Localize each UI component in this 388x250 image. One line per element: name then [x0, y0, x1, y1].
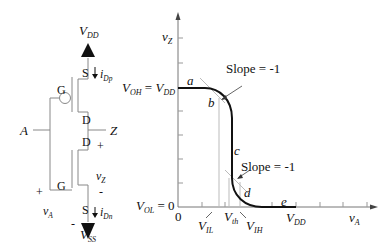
slope-annotation-1: Slope = -1 — [226, 62, 280, 75]
region-d-label: d — [244, 186, 251, 199]
vil-label: VIL — [198, 219, 213, 235]
region-a-label: a — [187, 74, 194, 87]
input-node-label: A — [20, 124, 28, 137]
gate-wire — [50, 98, 72, 190]
vtc-chart — [176, 12, 379, 218]
nmos-drain-label: D — [82, 136, 91, 148]
vth-label: Vth — [224, 210, 238, 226]
region-e-label: e — [281, 195, 287, 208]
idp-arrow-icon — [92, 74, 98, 79]
idn-arrow-icon — [92, 213, 98, 218]
y-ticks — [178, 38, 183, 183]
vdd-arrow-icon — [81, 43, 95, 57]
idn-label: iDn — [100, 206, 112, 220]
vdd-x-label: VDD — [286, 211, 306, 227]
pmos-channel-wire — [78, 79, 88, 138]
output-node-label: Z — [110, 124, 117, 137]
x-axis-arrow-icon — [370, 205, 378, 210]
cmos-inverter-circuit — [33, 58, 106, 222]
region-c-label: c — [234, 144, 240, 157]
vz-label: vZ — [96, 170, 105, 184]
va-minus: - — [71, 218, 75, 230]
idp-label: iDp — [100, 68, 112, 82]
vz-plus: + — [97, 140, 104, 152]
voh-label: VOH = VDD — [122, 81, 175, 97]
x-axis-label: vA — [349, 211, 360, 227]
y-axis-arrow-icon — [176, 12, 181, 20]
region-b-label: b — [208, 96, 215, 109]
inverter-diagram — [0, 0, 388, 250]
pmos-gate-label: G — [57, 84, 66, 96]
slope-annotation-2: Slope = -1 — [241, 160, 295, 173]
nmos-gate-label: G — [57, 180, 66, 192]
vdd-label: VDD — [79, 24, 99, 40]
nmos-source-label: S — [82, 204, 89, 216]
vz-minus: - — [99, 186, 103, 198]
vil-pointer — [206, 212, 212, 218]
vih-label: VIH — [246, 219, 262, 235]
vss-label: VSS — [80, 228, 96, 244]
pmos-drain-label: D — [82, 114, 91, 126]
vol-label: VOL = 0 — [136, 199, 175, 215]
y-axis-label: vZ — [162, 30, 172, 46]
origin-label: 0 — [175, 210, 182, 223]
pmos-source-label: S — [82, 67, 89, 79]
va-label: vA — [43, 205, 53, 219]
va-plus: + — [36, 186, 43, 198]
